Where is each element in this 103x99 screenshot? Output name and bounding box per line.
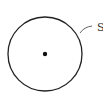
- circle-label: S: [97, 21, 103, 34]
- leader-line: [80, 26, 92, 33]
- center-point: [43, 52, 47, 56]
- diagram-canvas: S: [0, 0, 103, 99]
